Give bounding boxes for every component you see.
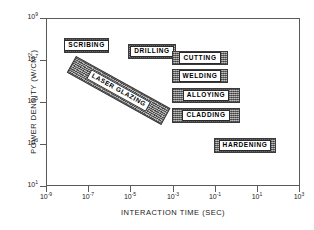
y-tick-mark — [40, 102, 46, 103]
x-tick-label: 101 — [252, 193, 263, 200]
process-box-hardening: HARDENING — [214, 138, 276, 153]
x-tick-exponent: 1 — [260, 191, 263, 197]
process-label-welding: WELDING — [179, 70, 222, 82]
process-label-cladding: CLADDING — [182, 110, 229, 122]
process-label-cutting: CUTTING — [179, 52, 220, 64]
x-tick-mantissa: 10 — [167, 193, 175, 200]
y-tick-mark — [40, 18, 46, 19]
x-tick-mantissa: 10 — [124, 193, 132, 200]
x-tick-label: 10-7 — [82, 193, 94, 200]
x-axis-title: INTERACTION TIME (SEC) — [46, 208, 300, 217]
laser-process-chart: 109 107 105 103 101 10-9 10-7 10-5 10-3 … — [0, 0, 314, 230]
x-tick-label: 10-5 — [124, 193, 136, 200]
x-tick-label: 103 — [294, 193, 305, 200]
x-tick-mark — [299, 186, 300, 192]
process-box-welding: WELDING — [172, 69, 228, 83]
y-tick-exponent: 9 — [35, 11, 38, 17]
y-axis-title-exponent: 2 — [27, 52, 33, 56]
x-tick-mantissa: 10 — [82, 193, 90, 200]
x-tick-mantissa: 10 — [40, 193, 48, 200]
process-box-alloying: ALLOYING — [172, 88, 240, 103]
x-tick-label: 10-3 — [167, 193, 179, 200]
x-tick-exponent: 3 — [302, 191, 305, 197]
y-axis-title-paren: ) — [29, 49, 38, 52]
x-tick-exponent: -9 — [48, 191, 52, 197]
x-tick-exponent: -3 — [175, 191, 179, 197]
process-label-scribing: SCRIBING — [64, 40, 109, 52]
x-tick-mantissa: 10 — [209, 193, 217, 200]
process-box-cutting: CUTTING — [172, 51, 228, 65]
process-box-cladding: CLADDING — [172, 108, 240, 123]
x-tick-mantissa: 10 — [294, 193, 302, 200]
x-tick-exponent: -5 — [132, 191, 136, 197]
y-tick-mark — [40, 60, 46, 61]
process-label-hardening: HARDENING — [219, 140, 272, 152]
x-tick-label: 10-9 — [40, 193, 52, 200]
x-tick-exponent: -7 — [90, 191, 94, 197]
process-box-drilling: DRILLING — [128, 44, 176, 59]
process-box-scribing: SCRIBING — [64, 38, 109, 53]
y-tick-mark — [40, 144, 46, 145]
x-tick-mantissa: 10 — [252, 193, 260, 200]
y-tick-label: 101 — [27, 181, 38, 188]
x-tick-label: 10-1 — [209, 193, 221, 200]
y-axis-title-text: POWER DENSITY (W/CM — [29, 56, 38, 154]
process-label-drilling: DRILLING — [130, 46, 174, 58]
x-tick-exponent: -1 — [217, 191, 221, 197]
process-label-alloying: ALLOYING — [183, 90, 229, 102]
y-tick-label: 109 — [27, 13, 38, 20]
x-tick-mark — [257, 186, 258, 192]
y-axis-title: POWER DENSITY (W/CM2) — [29, 22, 38, 182]
